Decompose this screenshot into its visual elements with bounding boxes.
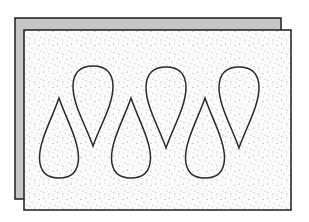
stacked-sheets-diagram [0,0,309,222]
diagram-stage [0,0,309,222]
